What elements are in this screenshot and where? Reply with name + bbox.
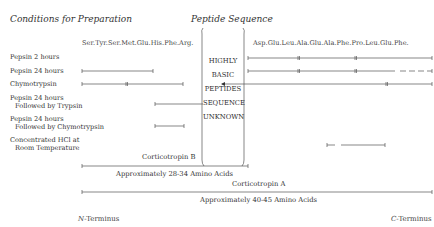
left-bracket-line: [202, 28, 204, 166]
right-bracket-line: [242, 28, 244, 166]
fragment-lines: [0, 0, 434, 227]
arrow-icon: [221, 82, 225, 86]
